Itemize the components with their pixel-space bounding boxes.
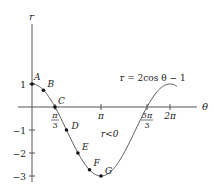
y-tick-label: −3 — [13, 172, 27, 182]
r-axis-label: r — [29, 11, 35, 22]
theta-axis-label: θ — [202, 101, 208, 112]
x-tick-label-pi3-den: 3 — [52, 121, 57, 130]
point-g — [99, 174, 103, 178]
x-tick-label-5pi3-num: 5π — [142, 111, 153, 120]
region-label: r<0 — [101, 129, 119, 139]
point-label-b: B — [46, 79, 54, 89]
y-tick-label: 1 — [20, 80, 26, 90]
point-label-g: G — [105, 166, 112, 176]
point-label-f: F — [93, 158, 101, 168]
point-c — [53, 105, 57, 109]
point-label-c: C — [58, 96, 65, 106]
point-label-a: A — [33, 72, 41, 82]
point-a — [30, 82, 34, 86]
x-tick-label-2pi: 2π — [163, 111, 177, 121]
y-tick-label: −1 — [13, 126, 26, 136]
point-f — [88, 168, 92, 172]
point-d — [65, 128, 69, 132]
y-tick-label: −2 — [13, 149, 26, 159]
point-label-e: E — [81, 142, 89, 152]
point-b — [42, 88, 46, 92]
point-label-d: D — [70, 121, 78, 131]
x-tick-label-pi: π — [97, 111, 105, 121]
equation-label: r = 2cos θ − 1 — [120, 73, 186, 83]
x-tick-label-5pi3-den: 3 — [144, 121, 149, 130]
point-e — [76, 151, 80, 155]
polar-function-graph: rθ1−1−2−3π2ππ35π3r = 2cos θ − 1r<0ABCDEF… — [0, 0, 214, 193]
